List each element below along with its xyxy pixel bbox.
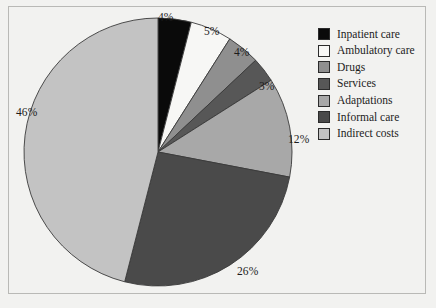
legend-swatch-icon (318, 128, 330, 140)
slice-label-ambulatory-care: 5% (204, 25, 220, 37)
slice-label-indirect-costs: 46% (16, 106, 37, 118)
legend-item-label: Inpatient care (337, 29, 400, 41)
legend-item-drugs[interactable]: Drugs (318, 59, 430, 76)
legend-item-indirect-costs[interactable]: Indirect costs (318, 126, 430, 143)
legend-swatch-icon (318, 61, 330, 73)
slice-label-services: 3% (259, 80, 275, 92)
legend-item-ambulatory-care[interactable]: Ambulatory care (318, 43, 430, 60)
legend-item-label: Drugs (337, 62, 365, 74)
legend-item-label: Ambulatory care (337, 45, 415, 57)
pie-chart-screenshot: 4% 5% 4% 3% 12% 26% 46% Inpatient careAm… (0, 0, 436, 308)
legend-item-adaptations[interactable]: Adaptations (318, 92, 430, 109)
legend-item-inpatient-care[interactable]: Inpatient care (318, 26, 430, 43)
legend-item-label: Informal care (337, 112, 399, 124)
pie-slice-group (24, 18, 292, 286)
slice-label-adaptations: 12% (288, 133, 309, 145)
legend-item-label: Services (337, 78, 376, 90)
slice-label-drugs: 4% (234, 46, 250, 58)
legend-swatch-icon (318, 95, 330, 107)
legend-swatch-icon (318, 28, 330, 40)
legend-item-services[interactable]: Services (318, 76, 430, 93)
legend-swatch-icon (318, 78, 330, 90)
chart-legend: Inpatient careAmbulatory careDrugsServic… (318, 26, 430, 142)
legend-item-label: Adaptations (337, 95, 393, 107)
legend-item-informal-care[interactable]: Informal care (318, 109, 430, 126)
legend-swatch-icon (318, 45, 330, 57)
slice-label-informal-care: 26% (237, 265, 258, 277)
slice-label-inpatient-care: 4% (158, 11, 174, 23)
legend-item-label: Indirect costs (337, 128, 399, 140)
legend-swatch-icon (318, 111, 330, 123)
